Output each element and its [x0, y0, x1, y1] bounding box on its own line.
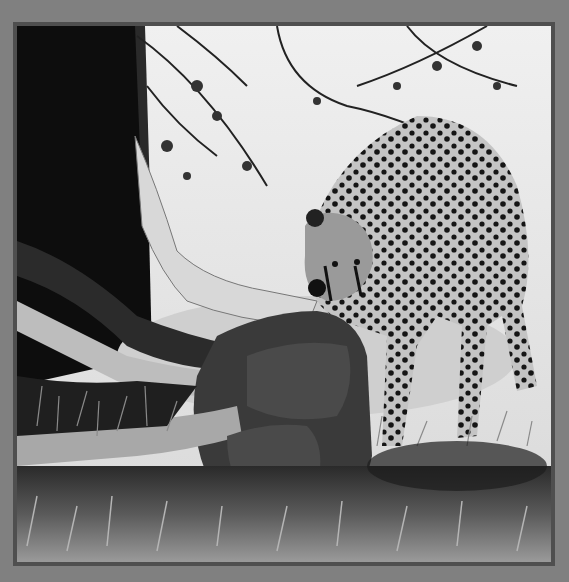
cheetah-photo-illustration: [17, 26, 551, 562]
photograph: [17, 26, 551, 562]
